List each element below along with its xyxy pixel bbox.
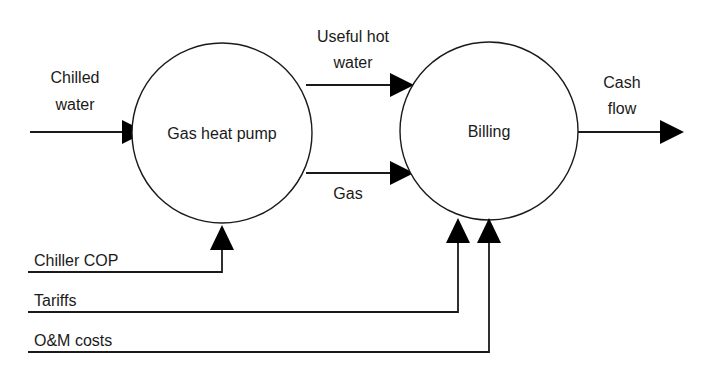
input-chiller-cop: Chiller COP: [28, 225, 234, 272]
billing-label: Billing: [468, 123, 511, 140]
cash-flow-arrowhead: [660, 120, 684, 144]
diagram-canvas: Chilled water Gas heat pump Useful hot w…: [0, 0, 707, 371]
process-flow-diagram: Chilled water Gas heat pump Useful hot w…: [0, 0, 707, 371]
edge-chilled-water: Chilled water: [30, 69, 146, 144]
cash-flow-label-line1: Cash: [603, 74, 640, 91]
input-om-costs: O&M costs: [28, 218, 501, 352]
node-billing[interactable]: Billing: [400, 42, 578, 220]
tariffs-arrowhead: [446, 218, 470, 243]
om-costs-label: O&M costs: [34, 332, 112, 349]
useful-hot-water-label-line1: Useful hot: [317, 28, 390, 45]
cash-flow-label-line2: flow: [608, 100, 637, 117]
chiller-cop-label: Chiller COP: [34, 252, 118, 269]
edge-cash-flow: Cash flow: [578, 74, 684, 144]
chiller-cop-arrowhead: [210, 225, 234, 250]
om-costs-arrowhead: [477, 218, 501, 243]
tariffs-label: Tariffs: [34, 292, 76, 309]
gas-label: Gas: [333, 185, 362, 202]
edge-useful-hot-water: Useful hot water: [306, 28, 414, 97]
chilled-water-label-line2: water: [54, 96, 95, 113]
useful-hot-water-label-line2: water: [332, 54, 373, 71]
gas-heat-pump-label: Gas heat pump: [167, 125, 277, 142]
node-gas-heat-pump[interactable]: Gas heat pump: [132, 43, 312, 223]
chilled-water-label-line1: Chilled: [51, 69, 100, 86]
edge-gas: Gas: [306, 161, 414, 202]
